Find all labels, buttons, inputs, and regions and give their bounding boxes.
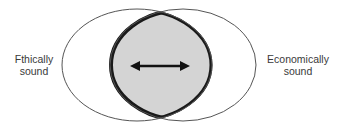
ethically-sound-label: Fthically sound — [6, 53, 62, 77]
economically-sound-label: Economically sound — [258, 53, 338, 77]
economically-label-line1: Economically — [258, 53, 338, 65]
economically-label-line2: sound — [258, 65, 338, 77]
ethically-label-line1: Fthically — [6, 53, 62, 65]
ethically-label-line2: sound — [6, 65, 62, 77]
venn-diagram: Fthically sound Economically sound — [0, 0, 339, 130]
